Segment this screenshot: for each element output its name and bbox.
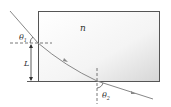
refraction-diagram: n θ1 L θ2 [0,0,171,107]
glass-slab [39,12,160,82]
theta1-label: θ1 [19,33,27,43]
length-arrowhead-top [29,44,33,48]
ray-arrow-exit [131,91,136,94]
medium-label: n [80,23,86,33]
theta2-label: θ2 [102,91,110,101]
length-arrowhead-bottom [29,77,33,81]
theta1-arc [30,37,33,43]
length-label: L [23,59,29,68]
theta2-arc [97,83,103,88]
